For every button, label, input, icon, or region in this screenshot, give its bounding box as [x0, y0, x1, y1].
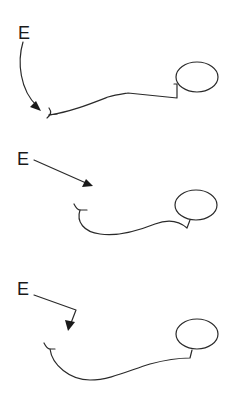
terminal-fork: [44, 343, 55, 349]
curved-arrow-icon: [20, 42, 37, 106]
bent-arrow-icon: [34, 295, 76, 323]
cell-body: [175, 190, 217, 220]
panel-2-drawing: [0, 140, 231, 270]
cell-body: [176, 319, 218, 349]
terminal-fork: [74, 204, 87, 210]
terminal-fork: [47, 108, 57, 118]
panel-1-drawing: [0, 0, 231, 140]
axon: [49, 84, 177, 115]
diagram: E E E: [0, 0, 231, 411]
panel-2: E: [0, 140, 231, 270]
cell-body: [176, 62, 218, 92]
arrowhead-icon: [30, 101, 41, 111]
axon: [79, 210, 190, 235]
panel-3-drawing: [0, 270, 231, 411]
arrowhead-icon: [82, 179, 93, 187]
panel-3: E: [0, 270, 231, 411]
axon: [50, 349, 192, 380]
arrowhead-icon: [65, 320, 75, 331]
panel-1: E: [0, 0, 231, 140]
straight-arrow-icon: [34, 160, 86, 183]
